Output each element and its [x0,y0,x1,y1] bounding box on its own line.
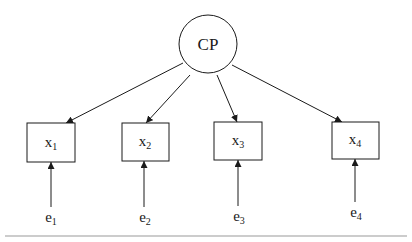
indicator-x3: x3 [214,122,262,160]
latent-node-cp: CP [179,15,237,73]
latent-label: CP [198,35,219,54]
error-arrows [51,159,355,207]
error-label-e1: e1 [45,209,57,227]
error-label-e4: e4 [350,204,362,222]
arrow-cp-to-x4 [232,65,342,122]
arrow-cp-to-x1 [66,63,183,123]
arrow-cp-to-x3 [217,75,237,122]
indicator-x4: x4 [332,122,379,159]
error-label-e2: e2 [139,209,151,227]
arrow-cp-to-x2 [146,75,190,123]
indicator-x2: x2 [122,123,169,161]
error-labels: e1 e2 e3 e4 [45,204,362,227]
indicator-x1: x1 [27,123,75,162]
sem-diagram: CP x1 x2 x3 x4 [0,0,412,242]
error-label-e3: e3 [233,208,245,226]
diagram-canvas: CP x1 x2 x3 x4 [0,0,412,242]
